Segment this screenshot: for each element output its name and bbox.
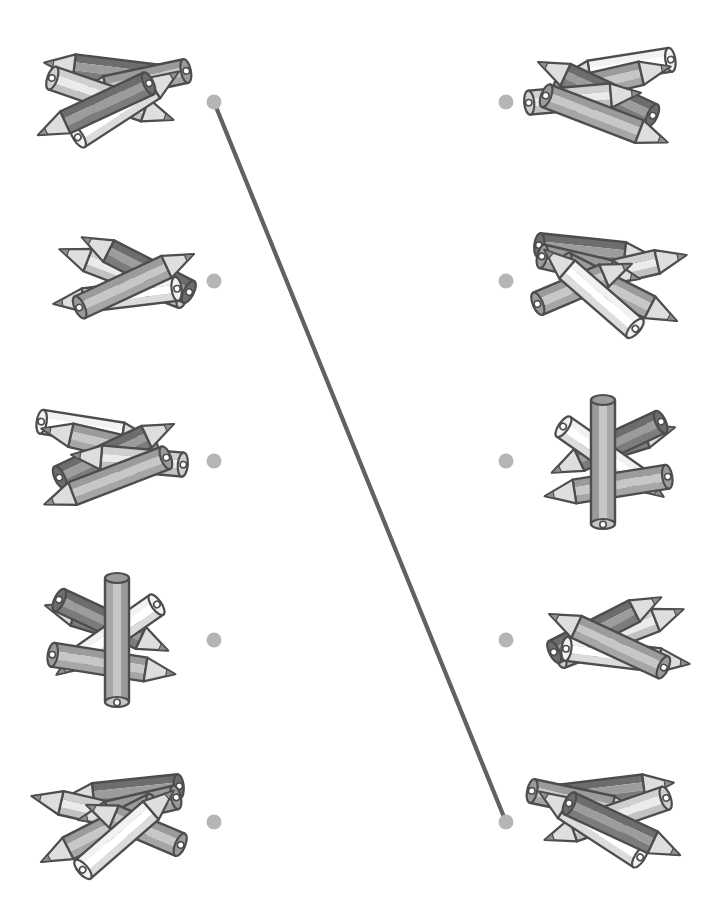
match-dot-right-4[interactable] [499,633,514,648]
match-dot-left-1[interactable] [207,95,222,110]
worksheet-canvas [0,0,713,908]
match-dot-right-3[interactable] [499,454,514,469]
pencil-cluster-L3 [35,409,189,515]
pencil-cluster-L4 [42,573,177,707]
connection-line [214,102,506,822]
pencil-cluster-R1 [523,47,677,153]
pencil-cluster-R2 [529,233,690,341]
pencil-cluster-L2 [52,227,199,321]
match-dot-right-1[interactable] [499,95,514,110]
pencil [105,573,129,707]
pencil-cluster-L1 [33,51,193,150]
pencil-cluster-R3 [543,395,678,529]
pencil-cluster-R5 [525,771,685,870]
match-dot-left-5[interactable] [207,815,222,830]
match-dot-right-2[interactable] [499,274,514,289]
pencil-cluster-L5 [29,774,190,882]
match-dot-right-5[interactable] [499,815,514,830]
match-dot-left-3[interactable] [207,454,222,469]
match-dot-left-4[interactable] [207,633,222,648]
pencil [591,395,615,529]
worksheet-page [0,0,713,908]
pencil-cluster-R4 [544,587,691,681]
match-dot-left-2[interactable] [207,274,222,289]
